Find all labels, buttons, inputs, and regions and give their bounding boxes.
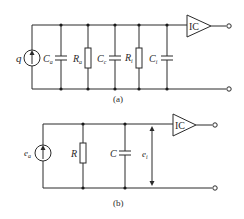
capacitor-ci-icon [161,25,173,89]
label-ri: Ri [124,52,133,64]
voltage-source-icon [35,145,51,161]
caption-b: (b) [113,198,124,208]
capacitor-cc-icon [109,25,121,89]
label-ca: Ca [43,53,53,65]
source-label-q: q [16,52,22,64]
capacitor-ca-icon [55,25,67,89]
label-ei: ei [142,149,148,160]
junction-dots-b [81,122,126,189]
output-terminal-bottom-b [213,186,217,190]
label-ra: Ra [72,53,82,65]
label-ci: Ci [149,53,158,65]
voltage-arrow-ei-icon [150,126,155,186]
label-cc: Cc [97,53,107,65]
output-terminal-top-a [227,24,231,28]
source-label-ea: ea [24,148,31,159]
amplifier-label-b: IC [175,120,185,131]
circuit-diagrams: q Ca Ra Cc Ri [0,0,244,219]
resistor-r-icon [80,124,86,188]
diagram-b: ea R C ei [24,114,217,208]
amplifier-label-a: IC [189,21,199,32]
output-terminal-top-b [213,123,217,127]
resistor-ra-icon [85,25,91,89]
output-terminal-bottom-a [227,87,231,91]
resistor-ri-icon [136,25,142,89]
charge-source-icon [24,50,40,66]
diagram-a: q Ca Ra Cc Ri [16,15,231,104]
label-r: R [70,148,77,159]
capacitor-c-icon [119,124,131,188]
caption-a: (a) [113,94,123,104]
label-c: C [110,148,117,159]
